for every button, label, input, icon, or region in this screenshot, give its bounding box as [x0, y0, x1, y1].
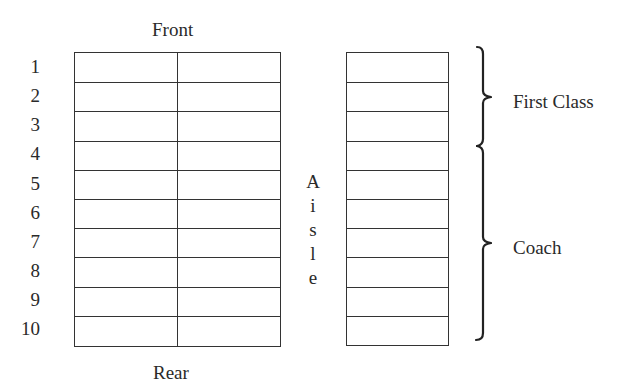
row-divider [75, 228, 280, 229]
brace-icon [470, 44, 510, 349]
row-divider [75, 287, 280, 288]
aisle-letter: i [303, 194, 323, 218]
aisle-letter: e [303, 266, 323, 290]
row-divider [75, 257, 280, 258]
row-divider [347, 82, 448, 83]
row-number: 6 [0, 203, 40, 222]
row-divider [75, 141, 280, 142]
row-number: 8 [0, 261, 40, 280]
left-seat-section [74, 52, 281, 347]
aisle-label: A i s l e [303, 170, 323, 290]
row-divider [75, 316, 280, 317]
first-class-label: First Class [513, 92, 594, 111]
row-divider [347, 316, 448, 317]
row-divider [75, 82, 280, 83]
row-divider [347, 141, 448, 142]
row-divider [347, 228, 448, 229]
coach-label: Coach [513, 238, 562, 257]
row-divider [75, 111, 280, 112]
row-number: 5 [0, 174, 40, 193]
right-seat-section [346, 52, 449, 346]
row-divider [347, 170, 448, 171]
row-number: 3 [0, 115, 40, 134]
aisle-letter: l [303, 242, 323, 266]
row-divider [75, 199, 280, 200]
aisle-letter: A [303, 170, 323, 194]
row-number: 10 [0, 319, 40, 338]
row-divider [347, 287, 448, 288]
row-divider [347, 111, 448, 112]
row-divider [347, 257, 448, 258]
row-divider [347, 199, 448, 200]
row-number: 7 [0, 232, 40, 251]
row-number: 9 [0, 290, 40, 309]
row-number: 2 [0, 86, 40, 105]
rear-label: Rear [153, 363, 189, 382]
row-number: 1 [0, 57, 40, 76]
row-number: 4 [0, 144, 40, 163]
row-divider [75, 170, 280, 171]
front-label: Front [152, 20, 193, 39]
aisle-letter: s [303, 218, 323, 242]
